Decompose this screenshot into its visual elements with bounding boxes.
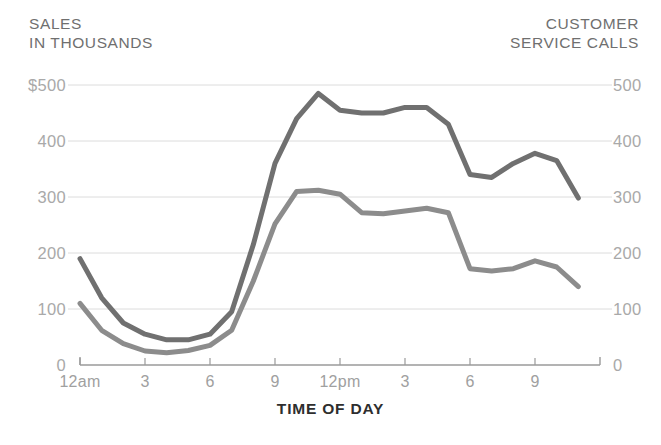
x-tick-label: 9 <box>240 374 310 390</box>
left-y-tick-label: 100 <box>0 301 66 318</box>
right-y-tick-label: 0 <box>613 357 661 374</box>
x-tick-label: 12am <box>45 374 115 390</box>
chart-container: SALES IN THOUSANDS CUSTOMER SERVICE CALL… <box>0 0 661 445</box>
gridlines <box>68 85 612 365</box>
right-y-tick-label: 100 <box>613 301 661 318</box>
right-y-tick-label: 300 <box>613 189 661 206</box>
x-tick-label: 3 <box>370 374 440 390</box>
x-tick-label: 6 <box>435 374 505 390</box>
x-axis-ticks <box>80 358 535 365</box>
left-y-tick-label: $500 <box>0 77 66 94</box>
x-axis-label: TIME OF DAY <box>0 400 661 418</box>
left-y-tick-label: 200 <box>0 245 66 262</box>
series-line <box>80 190 578 352</box>
data-series-lines <box>80 93 578 352</box>
x-tick-label: 3 <box>110 374 180 390</box>
x-tick-label: 12pm <box>305 374 375 390</box>
x-tick-label: 9 <box>500 374 570 390</box>
right-y-tick-label: 500 <box>613 77 661 94</box>
left-y-tick-label: 300 <box>0 189 66 206</box>
x-tick-label: 6 <box>175 374 245 390</box>
series-line <box>80 93 578 339</box>
left-y-tick-label: 400 <box>0 133 66 150</box>
right-y-tick-label: 400 <box>613 133 661 150</box>
left-y-tick-label: 0 <box>0 357 66 374</box>
right-y-tick-label: 200 <box>613 245 661 262</box>
